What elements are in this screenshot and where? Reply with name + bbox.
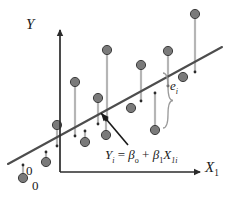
fitted-value-marker xyxy=(194,71,197,74)
fitted-value-marker xyxy=(97,123,100,126)
x-axis-label: X1 xyxy=(205,159,219,178)
origin-label-on-axis: 0 xyxy=(32,178,39,194)
residual-label-subscript: i xyxy=(176,87,178,96)
x-axis-label-text: X xyxy=(205,159,214,175)
fitted-value-marker xyxy=(140,100,143,103)
equation-equals: = xyxy=(118,147,125,162)
data-point xyxy=(150,125,159,134)
regression-scatter-figure xyxy=(0,0,234,202)
regression-equation-label: Yi = βo + β1X1i xyxy=(105,147,177,165)
data-point xyxy=(190,9,199,18)
fitted-value-marker xyxy=(56,145,59,148)
y-axis xyxy=(57,29,63,172)
x-axis xyxy=(60,169,201,175)
y-axis-label: Y xyxy=(26,16,34,33)
data-point xyxy=(93,93,102,102)
residual-label: ei xyxy=(170,78,178,96)
data-point xyxy=(163,46,172,55)
data-point xyxy=(178,72,187,81)
fitted-value-marker xyxy=(154,92,157,95)
data-point xyxy=(80,137,89,146)
fitted-value-marker xyxy=(45,151,48,154)
data-point xyxy=(136,60,145,69)
data-point xyxy=(41,157,50,166)
data-point xyxy=(102,45,111,54)
fitted-value-marker xyxy=(74,135,77,138)
data-point xyxy=(126,103,135,112)
data-point xyxy=(70,77,79,86)
x-axis-label-subscript: 1 xyxy=(214,168,219,178)
fitted-value-marker xyxy=(84,130,87,133)
fitted-value-marker xyxy=(22,164,25,167)
origin-label-on-line: 0 xyxy=(26,163,33,179)
equation-x-subscript: 1i xyxy=(171,156,177,165)
equation-x: X xyxy=(163,147,171,162)
data-point xyxy=(101,130,110,139)
